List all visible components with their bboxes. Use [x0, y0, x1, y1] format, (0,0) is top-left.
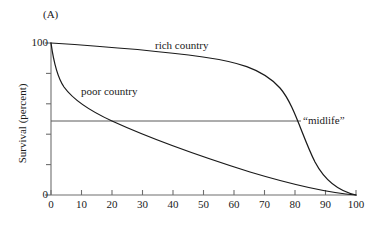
x-tick-label: 60 [229, 199, 240, 210]
x-tick-label: 50 [198, 199, 209, 210]
x-tick-label: 10 [76, 199, 87, 210]
x-tick-label: 40 [168, 199, 179, 210]
x-axis-ticks [51, 190, 356, 195]
x-tick-label: 70 [259, 199, 270, 210]
x-tick-label: 80 [290, 199, 301, 210]
x-tick-label: 90 [320, 199, 331, 210]
y-axis-title: Survival (percent) [17, 61, 28, 187]
y-axis-ticks [45, 43, 51, 195]
x-tick-label: 0 [48, 199, 54, 210]
y-tick-label-0: 0 [16, 189, 48, 200]
y-tick-label-100: 100 [16, 37, 48, 48]
annotation-label-midlife: “midlife” [303, 115, 345, 126]
panel-label: (A) [43, 9, 58, 20]
survival-curve-figure: (A) Survival (percent) 100 0 0 10 20 30 … [0, 0, 374, 228]
x-tick-label: 30 [137, 199, 148, 210]
x-tick-label: 20 [107, 199, 118, 210]
series-label-rich-country: rich country [155, 40, 208, 51]
series-label-poor-country: poor country [81, 86, 138, 97]
x-tick-label: 100 [348, 199, 365, 210]
